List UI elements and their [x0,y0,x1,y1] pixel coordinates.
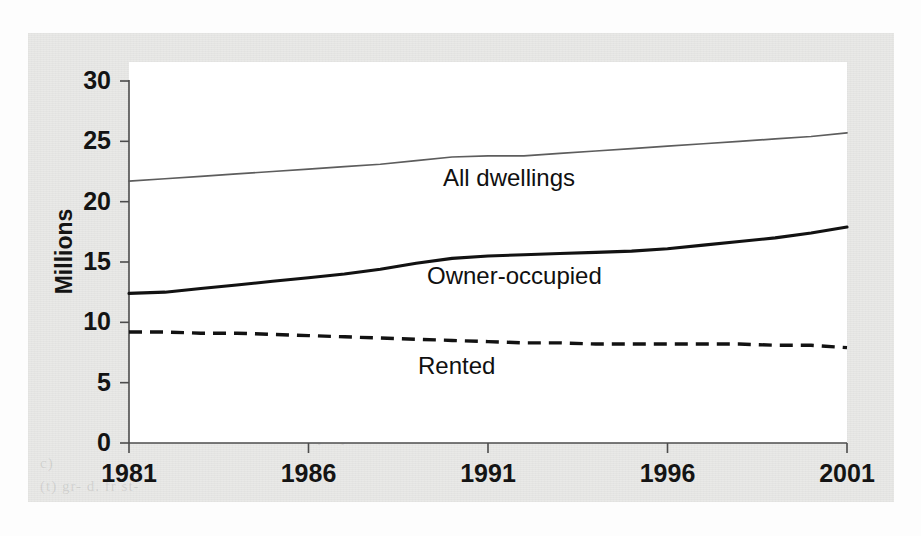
series-label-all-dwellings: All dwellings [443,164,575,192]
y-axis-tick-label: 5 [19,370,111,395]
chart-page: c) (t) gr- d. fr st- a ey d y hold- 0510… [0,0,921,536]
y-axis-tick-label: 0 [19,430,111,455]
x-axis-tick-label: 2001 [787,461,907,486]
x-axis-tick-label: 1986 [249,461,369,486]
x-axis-tick-label: 1991 [428,461,548,486]
y-axis-tick-label: 25 [19,128,111,153]
series-label-owner-occupied: Owner-occupied [427,262,602,290]
x-axis-tick-label: 1996 [608,461,728,486]
series-label-rented: Rented [418,352,495,380]
x-axis-tick-label: 1981 [69,461,189,486]
series-line-rented [129,332,847,348]
y-axis-title: Millions [51,182,78,322]
y-axis-tick-label: 30 [19,68,111,93]
